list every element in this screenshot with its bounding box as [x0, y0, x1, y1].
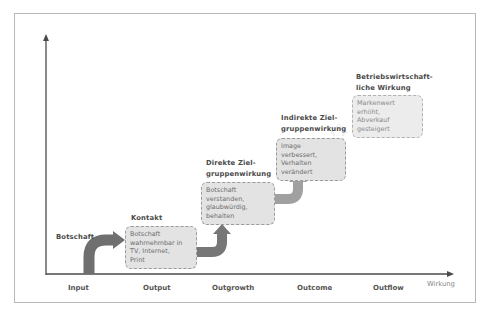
box-line: TV, Internet,	[130, 247, 192, 256]
box-line: verstanden,	[206, 195, 270, 204]
x-label-output: Output	[143, 284, 171, 292]
stage-title-line: Indirekte Ziel-	[281, 113, 346, 124]
stage-title-line: gruppenwirkung	[281, 124, 346, 135]
box-line: Botschaft	[206, 186, 270, 195]
box-kontakt: Botschaft wahrnehmbar in TV, Internet, P…	[125, 226, 197, 269]
box-line: verändert	[281, 168, 341, 177]
box-betrieb: Markenwert erhöht, Abverkauf gesteigert	[352, 95, 423, 138]
box-line: Print	[130, 256, 192, 265]
stage-title-line: Betriebswirtschaft-	[356, 72, 433, 83]
y-axis-arrowhead-icon	[43, 34, 49, 41]
box-line: glaubwürdig,	[206, 203, 270, 212]
stage-title-line: gruppenwirkung	[206, 169, 271, 180]
arrow-botschaft-to-kontakt	[89, 240, 114, 274]
x-label-outcome: Outcome	[297, 284, 332, 292]
box-line: Botschaft	[130, 230, 192, 239]
stage-title-line: liche Wirkung	[356, 83, 433, 94]
x-axis-name: Wirkung	[427, 280, 455, 288]
box-line: Abverkauf	[357, 116, 418, 125]
box-line: Markenwert	[357, 99, 418, 108]
x-axis-arrowhead-icon	[447, 271, 454, 277]
x-label-outflow: Outflow	[373, 284, 404, 292]
x-label-input: Input	[68, 284, 89, 292]
box-line: wahrnehmbar in	[130, 239, 192, 248]
box-line: behalten	[206, 212, 270, 221]
stage-title-betrieb: Betriebswirtschaft- liche Wirkung	[356, 72, 433, 94]
arrow-direkt-to-indirekt	[275, 181, 298, 199]
box-indirekt: Image verbessert, Verhalten verändert	[276, 138, 346, 181]
box-line: verbessert,	[281, 151, 341, 160]
box-direkt: Botschaft verstanden, glaubwürdig, behal…	[201, 182, 275, 225]
stage-title-direkt: Direkte Ziel- gruppenwirkung	[206, 158, 271, 180]
stage-title-indirekt: Indirekte Ziel- gruppenwirkung	[281, 113, 346, 135]
stage-title-botschaft: Botschaft	[56, 232, 94, 243]
box-line: Verhalten	[281, 159, 341, 168]
arrow-kontakt-to-direkt	[197, 233, 222, 252]
arrow-head-icon	[213, 224, 231, 234]
x-label-outgrowth: Outgrowth	[212, 284, 254, 292]
box-line: Image	[281, 142, 341, 151]
arrow-head-icon	[113, 231, 125, 249]
stage-title-kontakt: Kontakt	[131, 213, 162, 224]
stage-title-line: Direkte Ziel-	[206, 158, 271, 169]
box-line: gesteigert	[357, 125, 418, 134]
box-line: erhöht,	[357, 108, 418, 117]
